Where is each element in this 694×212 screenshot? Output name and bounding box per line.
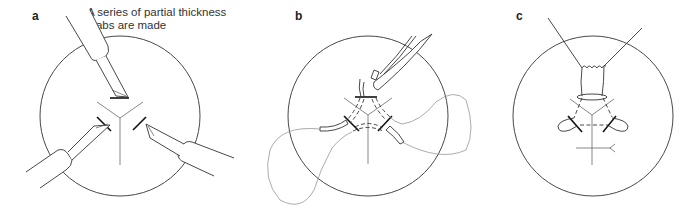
forceps <box>371 34 432 90</box>
y-incision <box>344 98 392 164</box>
y-incision <box>97 102 143 165</box>
panel-a-illustration <box>0 0 240 212</box>
panel-c-illustration <box>470 0 694 212</box>
suture-loop-left <box>558 118 577 131</box>
knife-top <box>66 10 128 97</box>
panel-b: b <box>240 0 480 212</box>
knot <box>548 18 642 100</box>
knife-left <box>26 124 110 188</box>
suture-tunnels <box>574 98 612 125</box>
stab-mark-right <box>133 117 146 130</box>
knife-right <box>146 124 234 176</box>
panel-a: a A series of partial thickness stabs ar… <box>0 0 240 212</box>
panel-c: c <box>470 0 694 212</box>
cross-mark <box>576 144 615 152</box>
y-incision <box>570 99 614 165</box>
panel-b-illustration <box>240 0 480 212</box>
